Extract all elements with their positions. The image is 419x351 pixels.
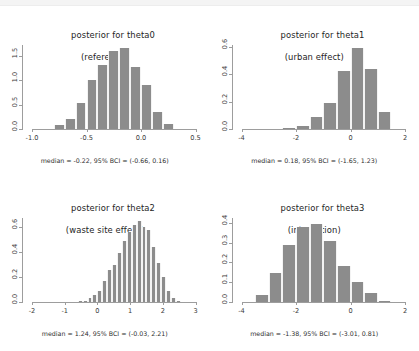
histogram-bar [310,224,324,303]
y-axis-tick-label: 0.5 [11,96,19,107]
y-axis-line [22,218,23,303]
plot-area-theta3: -4-202 [242,218,406,303]
x-axis-tick-label: -2 [293,307,300,315]
x-axis-tick [242,302,243,305]
histogram-bar [296,227,310,303]
histogram-bar [108,51,119,130]
panel-title-main: posterior for theta0 [71,30,155,40]
x-axis-tick [32,129,33,132]
x-axis-tick [32,302,33,305]
x-axis-line: -2-10123 [32,302,196,303]
x-axis-tick [196,129,197,132]
panel-title-main: posterior for theta2 [71,203,155,213]
x-axis-tick-label: 2 [161,307,165,315]
y-axis-tick-label: 0.6 [221,39,229,50]
x-axis-tick [196,302,197,305]
y-axis-tick [19,129,22,130]
x-axis-tick [242,129,243,132]
histogram-bar [351,282,365,303]
y-axis-theta3: 0.00.10.20.30.4 [232,218,233,303]
x-axis-tick-label: 0.0 [136,134,147,142]
y-axis-tick-label: 0.0 [11,294,19,305]
y-axis-line [232,45,233,130]
x-axis-tick-label: 1 [128,307,132,315]
panel-title-main: posterior for theta3 [281,203,365,213]
y-axis-tick-label: 0.0 [221,121,229,132]
y-axis-tick-label: 0.4 [221,66,229,77]
y-axis-theta1: 0.00.20.40.6 [232,45,233,130]
y-axis-tick-label: 0.3 [221,234,229,245]
histogram-bar [351,48,365,130]
x-axis-line: -4-202 [242,129,406,130]
y-axis-tick-label: 0.0 [221,294,229,305]
x-axis-tick-label: -4 [238,134,245,142]
histogram-bars-theta1 [242,45,406,130]
x-axis-tick-label: 3 [193,307,197,315]
histogram-bar [152,112,163,130]
x-axis-tick-label: 0 [95,307,99,315]
histogram-bar [97,65,108,130]
histogram-bar [323,241,337,303]
plot-area-theta2: -2-10123 [32,218,196,303]
histogram-bar [130,67,141,130]
x-axis-tick-label: 0 [348,134,352,142]
y-axis-theta2: 0.00.20.40.6 [22,218,23,303]
x-axis-tick-label: 0.5 [190,134,201,142]
histogram-bars-theta3 [242,218,406,303]
x-axis-tick-label: -0.5 [80,134,93,142]
x-axis-tick-label: -4 [238,307,245,315]
y-axis-tick-label: 0.0 [11,121,19,132]
x-axis-tick-label: 2 [403,134,407,142]
posterior-panel-grid: posterior for theta0 (reference) 0.00.51… [0,5,419,351]
histogram-bar [141,85,152,130]
panel-title-main: posterior for theta1 [281,30,365,40]
y-axis-line [232,218,233,303]
histogram-bar [337,266,351,303]
x-axis-tick [65,302,66,305]
y-axis-tick [19,227,22,228]
y-axis-tick-label: 0.6 [11,219,19,230]
histogram-bar [282,245,296,303]
x-axis-tick-label: -1 [61,307,68,315]
caption-theta1: median = 0.18, 95% BCI = (-1.65, 1.23) [210,157,419,164]
histogram-bars-theta2 [32,218,196,303]
y-axis-tick [19,56,22,57]
x-axis-tick [141,129,142,132]
histogram-bars-theta0 [32,45,196,130]
histogram-bar [76,103,87,130]
caption-theta2: median = 1.24, 95% BCI = (-0.03, 2.21) [0,330,210,337]
y-axis-tick-label: 0.2 [221,254,229,265]
histogram-bar [364,69,378,130]
y-axis-tick-label: 0.2 [11,269,19,280]
x-axis-tick [97,302,98,305]
x-axis-tick [351,302,352,305]
histogram-bar [337,71,351,130]
y-axis-tick [19,105,22,106]
x-axis-tick [87,129,88,132]
panel-theta1: posterior for theta1 (urban effect) 0.00… [210,5,419,178]
y-axis-tick [19,252,22,253]
histogram-bar [323,103,337,130]
caption-theta3: median = -1.38, 95% BCI = (-3.01, 0.81) [210,330,419,337]
y-axis-line [22,45,23,130]
x-axis-tick [351,129,352,132]
y-axis-tick [19,277,22,278]
x-axis-tick [296,129,297,132]
y-axis-tick-label: 0.4 [221,215,229,226]
x-axis-line: -4-202 [242,302,406,303]
caption-theta0: median = -0.22, 95% BCI = (-0.66, 0.16) [0,157,210,164]
y-axis-theta0: 0.00.51.01.5 [22,45,23,130]
panel-theta2: posterior for theta2 (waste site effect)… [0,178,210,351]
x-axis-tick [405,129,406,132]
y-axis-tick-label: 0.4 [11,244,19,255]
panel-theta0: posterior for theta0 (reference) 0.00.51… [0,5,210,178]
y-axis-tick-label: 0.1 [221,274,229,285]
x-axis-tick-label: -2 [29,307,36,315]
x-axis-tick-label: -2 [293,134,300,142]
x-axis-tick [130,302,131,305]
x-axis-tick [296,302,297,305]
histogram-bar [378,112,392,131]
y-axis-tick [19,302,22,303]
x-axis-tick [405,302,406,305]
y-axis-tick-label: 1.0 [11,72,19,83]
